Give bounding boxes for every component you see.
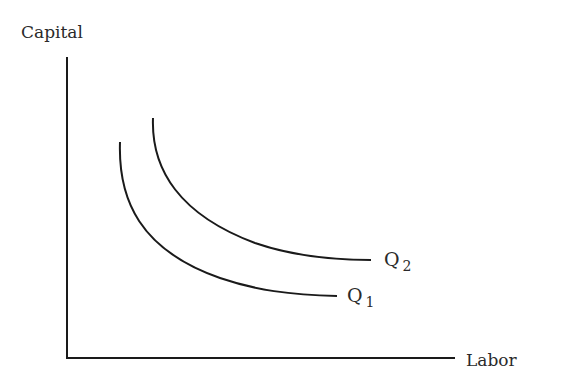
isoquant-q1-curve: [120, 142, 337, 296]
y-axis-label: Capital: [21, 22, 83, 42]
q2-label: Q2: [384, 248, 412, 274]
q2-subscript: 2: [403, 258, 412, 274]
isoquant-q2-curve: [153, 118, 371, 260]
q1-name: Q: [347, 284, 363, 306]
isoquant-diagram: [0, 0, 564, 389]
q1-label: Q1: [347, 284, 375, 310]
q1-subscript: 1: [366, 294, 375, 310]
q2-name: Q: [384, 248, 400, 270]
x-axis-label: Labor: [466, 350, 517, 370]
